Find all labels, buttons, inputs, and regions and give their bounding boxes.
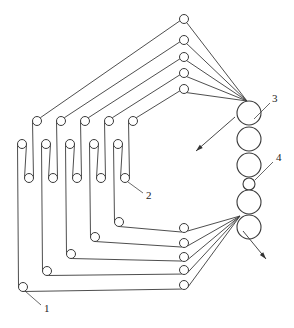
film-strand bbox=[97, 144, 99, 178]
film-strand bbox=[73, 144, 75, 178]
guide-roller-icon bbox=[105, 117, 114, 126]
label-2-leader bbox=[128, 182, 143, 193]
label-1: 1 bbox=[44, 302, 50, 314]
film-strand bbox=[25, 144, 27, 178]
film-strand bbox=[129, 121, 130, 178]
guide-roller-icon bbox=[43, 267, 52, 276]
film-strand bbox=[71, 259, 182, 262]
guide-roller-icon bbox=[180, 15, 189, 24]
film-strand bbox=[187, 216, 240, 231]
stack-roller bbox=[237, 127, 261, 151]
film-strand bbox=[57, 121, 58, 178]
film-strand bbox=[114, 144, 115, 222]
guide-roller-icon bbox=[18, 140, 27, 149]
guide-roller-icon bbox=[49, 174, 58, 183]
film-strand bbox=[66, 144, 67, 254]
guide-roller-icon bbox=[180, 36, 189, 45]
guide-roller-icon bbox=[42, 140, 51, 149]
stack-roller bbox=[237, 215, 261, 239]
film-strand bbox=[119, 227, 182, 233]
guide-roller-icon bbox=[97, 174, 106, 183]
film-strand bbox=[88, 59, 180, 118]
film-strand bbox=[187, 216, 240, 260]
film-strand bbox=[187, 216, 240, 246]
label-2: 2 bbox=[146, 189, 152, 201]
label-1-leader bbox=[25, 291, 41, 305]
guide-roller-icon bbox=[180, 69, 189, 78]
guide-roller-icon bbox=[180, 253, 189, 262]
guide-roller-icon bbox=[180, 266, 189, 275]
film-strand bbox=[187, 44, 247, 101]
guide-roller-icon bbox=[73, 174, 82, 183]
guide-roller-icon bbox=[121, 174, 130, 183]
guide-roller-icon bbox=[67, 250, 76, 259]
guide-roller-icon bbox=[25, 174, 34, 183]
film-strand bbox=[49, 144, 51, 178]
guide-roller-icon bbox=[90, 140, 99, 149]
guide-roller-icon bbox=[180, 239, 189, 248]
guide-roller-icon bbox=[91, 233, 100, 242]
guide-roller-icon bbox=[19, 283, 28, 292]
label-4: 4 bbox=[276, 151, 282, 163]
film-paths bbox=[18, 21, 248, 292]
guide-roller-icon bbox=[180, 85, 189, 94]
film-strand bbox=[136, 91, 180, 118]
guide-roller-icon bbox=[180, 281, 189, 290]
guide-roller-icon bbox=[180, 224, 189, 233]
film-strand bbox=[187, 216, 240, 273]
film-strand bbox=[64, 42, 180, 118]
film-strand bbox=[187, 93, 247, 101]
guide-roller-icon bbox=[81, 117, 90, 126]
guide-roller-icon bbox=[114, 140, 123, 149]
film-strand bbox=[81, 121, 82, 178]
film-strand bbox=[33, 121, 34, 178]
guide-roller-icon bbox=[115, 218, 124, 227]
film-strand bbox=[47, 274, 182, 275]
film-strand bbox=[95, 242, 182, 248]
guide-roller-icon bbox=[33, 117, 42, 126]
film-strand bbox=[18, 144, 19, 287]
film-strand bbox=[90, 144, 91, 237]
stack-roller bbox=[237, 153, 261, 177]
roller-stack bbox=[237, 101, 261, 239]
film-strand bbox=[187, 216, 240, 288]
film-winding-diagram: 1234 bbox=[0, 0, 294, 328]
guide-roller-icon bbox=[180, 53, 189, 62]
label-3: 3 bbox=[272, 92, 278, 104]
film-strand bbox=[187, 61, 247, 101]
stack-roller bbox=[237, 190, 261, 214]
guide-roller-icon bbox=[129, 117, 138, 126]
film-strand bbox=[121, 144, 123, 178]
film-strand bbox=[105, 121, 106, 178]
film-strand bbox=[42, 144, 43, 271]
film-strand bbox=[23, 289, 182, 291]
guide-roller-icon bbox=[66, 140, 75, 149]
guide-roller-icon bbox=[57, 117, 66, 126]
guide-rollers bbox=[18, 15, 189, 292]
arrow-out bbox=[196, 117, 235, 151]
stack-roller bbox=[237, 101, 261, 125]
small-nip-roller bbox=[243, 178, 255, 190]
